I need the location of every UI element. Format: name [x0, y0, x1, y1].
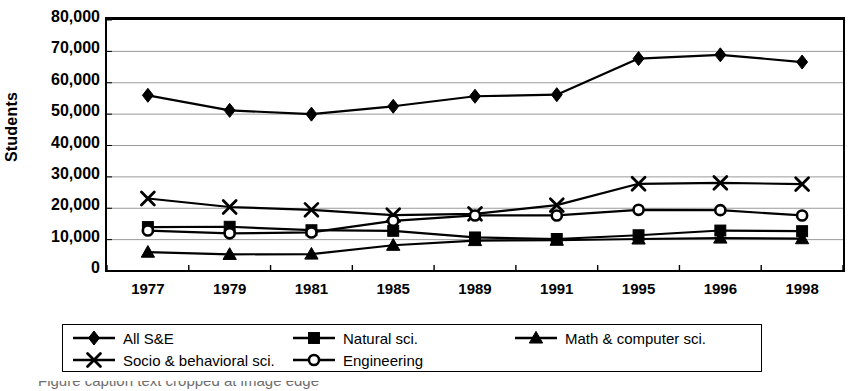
data-point-diamond — [470, 89, 481, 103]
data-point-diamond — [797, 55, 808, 69]
y-axis-tick-label: 0 — [18, 260, 100, 276]
legend-swatch — [291, 350, 337, 370]
data-point-circle — [470, 210, 480, 220]
data-point-circle — [797, 210, 807, 220]
data-point-square — [309, 333, 320, 344]
y-axis-tick-label: 60,000 — [18, 72, 100, 88]
x-axis-tick-label: 1989 — [434, 280, 516, 297]
x-axis-tick-label: 1991 — [516, 280, 598, 297]
legend-item[interactable]: Math & computer sci. — [513, 327, 753, 349]
legend-item[interactable]: Engineering — [291, 349, 513, 371]
data-point-circle — [225, 228, 235, 238]
legend-marker-diamond-icon — [71, 328, 117, 348]
legend-row: All S&ENatural sci.Math & computer sci. — [63, 327, 761, 349]
y-axis-tick-label: 80,000 — [18, 9, 100, 25]
data-point-diamond — [388, 99, 399, 113]
legend-swatch — [291, 328, 337, 348]
x-axis-tick-label: 1977 — [107, 280, 189, 297]
y-axis-tick-label: 70,000 — [18, 40, 100, 56]
plot-area — [105, 17, 845, 272]
data-point-circle — [552, 210, 562, 220]
data-point-diamond — [633, 52, 644, 66]
y-axis-tick-label: 50,000 — [18, 103, 100, 119]
legend-row: Socio & behavioral sci.Engineering — [63, 349, 761, 371]
series-line — [142, 48, 807, 121]
data-point-diamond — [142, 88, 153, 102]
y-axis-tick-labels: 010,00020,00030,00040,00050,00060,00070,… — [18, 6, 100, 286]
x-axis-tick-label: 1998 — [761, 280, 843, 297]
x-axis-tick-labels: 197719791981198519891991199519961998 — [105, 280, 845, 304]
legend-swatch — [513, 328, 559, 348]
data-point-circle — [306, 227, 316, 237]
x-axis-tick-label: 1985 — [352, 280, 434, 297]
legend-item-label: Natural sci. — [337, 330, 418, 347]
x-axis-tick-label: 1995 — [598, 280, 680, 297]
legend-marker-cross-icon — [71, 350, 117, 370]
data-point-diamond — [89, 331, 100, 345]
data-point-diamond — [306, 107, 317, 121]
series-polyline — [148, 55, 802, 114]
legend-marker-circle-icon — [291, 350, 337, 370]
series-line — [141, 231, 809, 259]
y-axis-tick-label: 30,000 — [18, 166, 100, 182]
data-point-circle — [634, 205, 644, 215]
y-axis-tick-label: 40,000 — [18, 135, 100, 151]
legend-item[interactable]: All S&E — [63, 327, 291, 349]
legend-item[interactable]: Natural sci. — [291, 327, 513, 349]
y-axis-tick-label: 20,000 — [18, 197, 100, 213]
data-point-circle — [309, 355, 319, 365]
legend-item-label: All S&E — [117, 330, 174, 347]
bottom-caption-text: Figure caption text cropped at image edg… — [38, 381, 319, 389]
bottom-caption: Figure caption text cropped at image edg… — [0, 381, 857, 391]
x-axis-tick-label: 1981 — [270, 280, 352, 297]
data-point-diamond — [551, 88, 562, 102]
data-point-circle — [715, 205, 725, 215]
data-point-diamond — [224, 103, 235, 117]
legend-marker-square-icon — [291, 328, 337, 348]
plot-svg — [107, 20, 843, 271]
legend-item-label: Socio & behavioral sci. — [117, 352, 275, 369]
chart-legend: All S&ENatural sci.Math & computer sci.S… — [62, 324, 762, 372]
data-point-diamond — [715, 48, 726, 62]
data-point-circle — [388, 216, 398, 226]
legend-swatch — [71, 328, 117, 348]
legend-item[interactable]: Socio & behavioral sci. — [63, 349, 291, 371]
legend-swatch — [71, 350, 117, 370]
x-axis-tick-label: 1996 — [679, 280, 761, 297]
legend-item-label: Math & computer sci. — [559, 330, 706, 347]
legend-marker-triangle-icon — [513, 328, 559, 348]
x-axis-tick-label: 1979 — [189, 280, 271, 297]
line-chart: Students 010,00020,00030,00040,00050,000… — [0, 0, 857, 391]
data-point-circle — [143, 225, 153, 235]
y-axis-tick-label: 10,000 — [18, 229, 100, 245]
legend-item-label: Engineering — [337, 352, 423, 369]
